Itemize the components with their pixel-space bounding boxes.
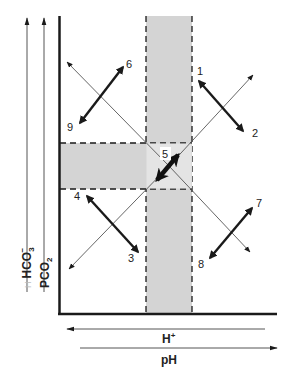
acid-base-diagram: HHCO3− PCO2 H+ pH 1 2 3 4 5 6 7 8 9	[0, 0, 291, 373]
h-plus-label: H+	[162, 331, 176, 346]
ph-label: pH	[161, 353, 177, 367]
label-1: 1	[197, 65, 203, 77]
double-arrow-7-8-icon	[210, 208, 252, 258]
label-7: 7	[256, 197, 262, 209]
label-9: 9	[67, 121, 73, 133]
label-5: 5	[162, 148, 168, 160]
double-arrow-1-2-icon	[199, 81, 243, 131]
label-2: 2	[252, 127, 258, 139]
pco2-label: PCO2	[38, 257, 54, 288]
hco3-label: HHCO3−	[18, 247, 36, 288]
double-arrow-4-3-icon	[87, 196, 138, 252]
label-6: 6	[126, 58, 132, 70]
label-4: 4	[74, 190, 80, 202]
double-arrow-6-9-icon	[80, 67, 123, 123]
label-8: 8	[198, 258, 204, 270]
label-3: 3	[128, 252, 134, 264]
